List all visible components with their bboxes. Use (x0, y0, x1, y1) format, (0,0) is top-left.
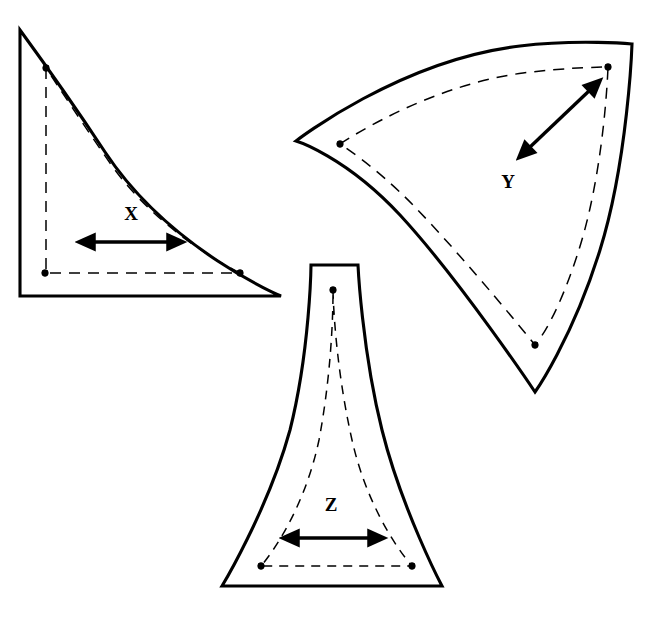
piece-z: Z (222, 265, 442, 586)
piece-y-notch-top-right-y (605, 64, 612, 71)
piece-y-label: Y (501, 171, 515, 192)
piece-x-label: X (124, 203, 138, 224)
piece-x-notch-top-left-y (43, 65, 50, 72)
piece-x-notch-bottom-right-y (237, 270, 244, 277)
piece-z-notch-bottom-right-y (409, 563, 416, 570)
piece-x: X (20, 30, 281, 296)
piece-y-notch-bottom-y (532, 342, 539, 349)
pattern-diagram: X Y Z (0, 0, 650, 618)
piece-x-outline (20, 30, 281, 296)
piece-z-notch-bottom-left-y (258, 563, 265, 570)
piece-y-notch-left-y (337, 141, 344, 148)
pattern-canvas: X Y Z (0, 0, 650, 618)
piece-x-notch-bottom-left-y (42, 270, 49, 277)
piece-z-label: Z (325, 494, 338, 515)
piece-z-notch-top-y (330, 287, 337, 294)
